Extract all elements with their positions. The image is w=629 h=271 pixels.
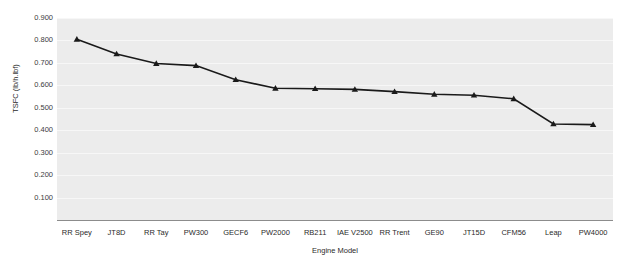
x-tick-label: CFM56 [501, 228, 526, 237]
x-axis-title: Engine Model [57, 246, 613, 255]
y-tick-label: 0.900 [34, 14, 53, 22]
x-tick-label: PW4000 [579, 228, 608, 237]
series-line [77, 39, 593, 124]
x-tick-label: RR Tay [144, 228, 168, 237]
x-tick-label: RR Spey [62, 228, 92, 237]
x-tick-label: IAE V2500 [337, 228, 373, 237]
y-tick-label: 0.200 [34, 171, 53, 179]
x-tick-label: RR Trent [380, 228, 410, 237]
y-tick-label: 0.500 [34, 104, 53, 112]
y-axis-title: TSFC (lb/h.lbf) [11, 24, 20, 154]
plot-area [57, 18, 613, 220]
y-tick-label: 0.300 [34, 149, 53, 157]
x-tick-label: PW2000 [261, 228, 290, 237]
y-tick-label: 0.800 [34, 36, 53, 44]
x-tick-label: JT15D [463, 228, 485, 237]
x-axis-line [57, 220, 613, 221]
data-series [57, 18, 613, 220]
y-tick-label: 0.700 [34, 59, 53, 67]
x-tick-label: JT8D [108, 228, 126, 237]
y-tick-label: 0.100 [34, 194, 53, 202]
y-tick-label: 0.600 [34, 81, 53, 89]
data-point-marker [74, 36, 80, 42]
x-tick-label: PW300 [184, 228, 209, 237]
x-tick-label: GE90 [425, 228, 444, 237]
y-tick-label: 0.400 [34, 126, 53, 134]
y-axis: 0.9000.8000.7000.6000.5000.4000.3000.200… [0, 0, 57, 240]
x-tick-label: GECF6 [223, 228, 248, 237]
x-tick-label: RB211 [304, 228, 326, 237]
chart-container: 0.9000.8000.7000.6000.5000.4000.3000.200… [0, 0, 629, 271]
x-tick-label: Leap [545, 228, 562, 237]
